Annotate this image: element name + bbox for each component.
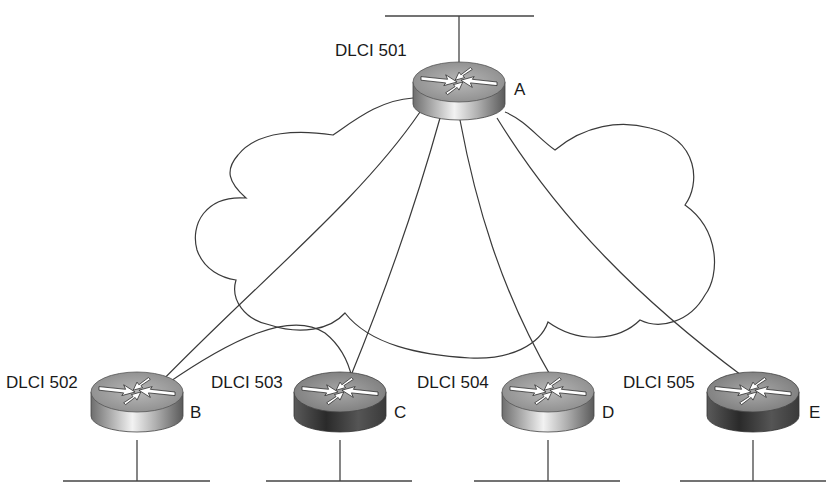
router-c-icon <box>294 372 386 432</box>
router-label-c: C <box>394 403 406 422</box>
router-label-d: D <box>602 403 614 422</box>
dlci-label-c: DLCI 503 <box>211 373 283 392</box>
link-a-c <box>350 118 440 378</box>
frame-relay-cloud <box>195 98 714 358</box>
router-b-icon <box>91 372 183 432</box>
router-a-icon <box>413 62 505 120</box>
router-label-b: B <box>190 403 201 422</box>
link-a-e <box>497 118 745 378</box>
dlci-label-e: DLCI 505 <box>623 373 695 392</box>
lan-segment-a <box>385 16 534 62</box>
dlci-label-a: DLCI 501 <box>335 41 407 60</box>
dlci-label-d: DLCI 504 <box>417 373 489 392</box>
router-label-a: A <box>514 80 526 99</box>
lan-segment-d <box>474 440 620 481</box>
dlci-label-b: DLCI 502 <box>6 373 78 392</box>
network-diagram: DLCI 501 A DLCI 502 B DLCI 503 C DLCI 50… <box>0 0 833 484</box>
link-a-d <box>460 120 553 380</box>
router-e-icon <box>707 372 799 432</box>
router-d-icon <box>502 372 594 432</box>
link-a-b <box>158 112 420 385</box>
lan-segment-c <box>266 440 412 481</box>
lan-segment-e <box>680 440 826 481</box>
lan-segment-b <box>63 440 210 481</box>
router-label-e: E <box>809 403 820 422</box>
